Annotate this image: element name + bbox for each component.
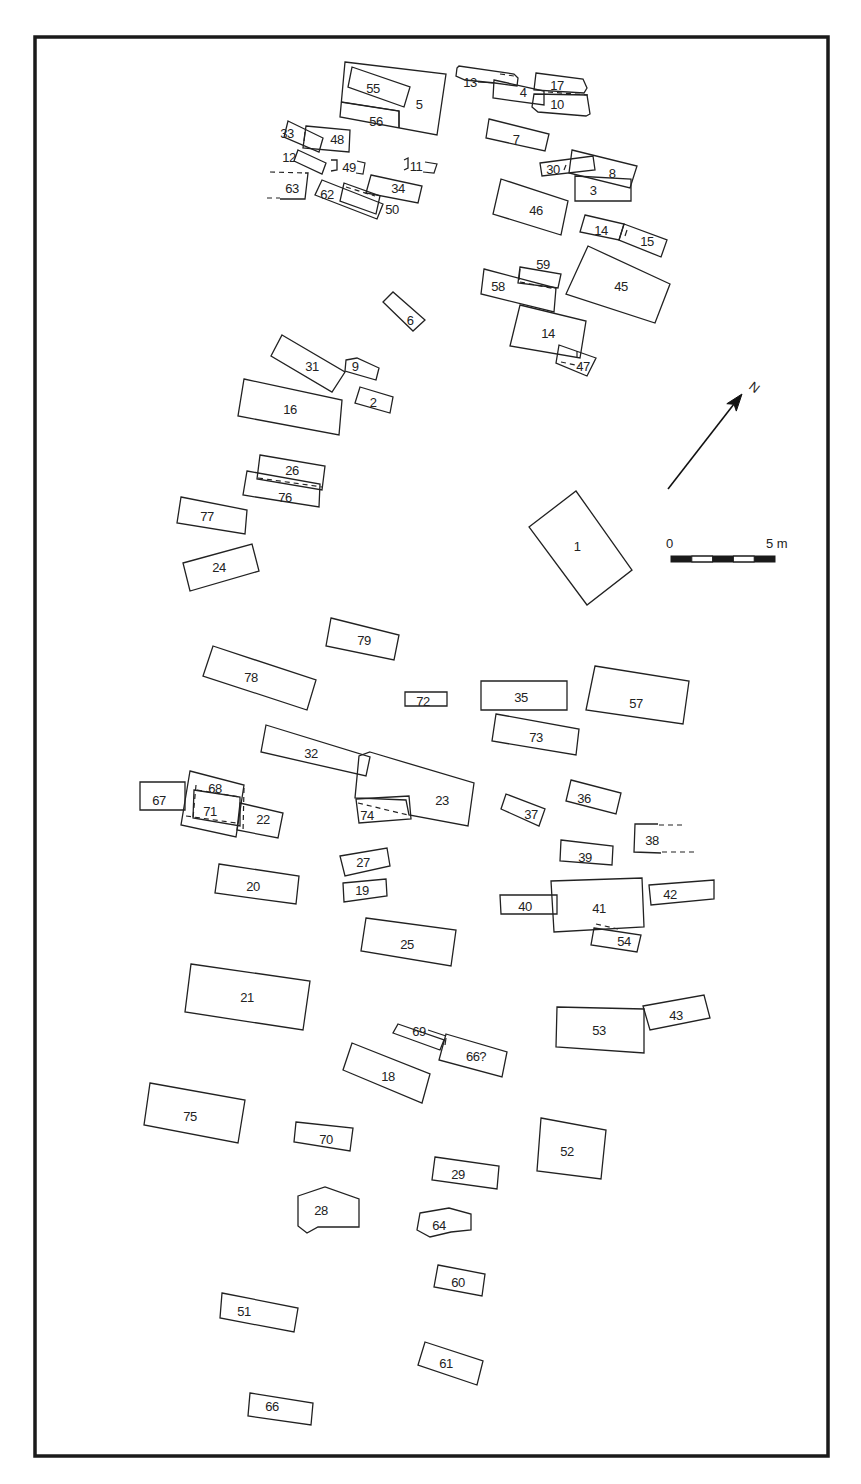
feature-outline (404, 158, 408, 170)
feature-76: 76 (243, 471, 320, 507)
north-arrow: N (668, 379, 763, 489)
feature-label: 20 (246, 879, 260, 894)
plan-frame (35, 37, 828, 1456)
feature-69: 69 (393, 1024, 444, 1051)
feature-39: 39 (560, 840, 613, 865)
feature-21: 21 (185, 964, 310, 1030)
feature-label: 30 (546, 162, 560, 177)
feature-14a: 14 (580, 215, 624, 240)
feature-8: 8 (569, 150, 637, 188)
feature-label: 14 (594, 223, 608, 238)
feature-label: 46 (529, 203, 543, 218)
feature-36: 36 (566, 780, 621, 814)
scale-end-label: 5 m (766, 536, 788, 551)
feature-label: 74 (360, 808, 374, 823)
feature-77: 77 (177, 497, 247, 534)
feature-label: 4 (520, 85, 527, 100)
feature-label: 66? (466, 1049, 486, 1064)
feature-7: 7 (486, 119, 549, 151)
feature-label: 2 (370, 395, 377, 410)
feature-40: 40 (500, 895, 557, 914)
feature-label: 25 (400, 937, 414, 952)
feature-label: 14 (541, 326, 555, 341)
feature-label: 38 (645, 833, 659, 848)
feature-label: 21 (240, 990, 254, 1005)
feature-70: 70 (294, 1122, 353, 1151)
feature-label: 58 (491, 279, 505, 294)
feature-9: 9 (345, 358, 379, 380)
feature-64: 64 (417, 1208, 471, 1237)
feature-51: 51 (220, 1293, 298, 1332)
feature-47: 47 (556, 345, 596, 376)
feature-label: 28 (314, 1203, 328, 1218)
feature-13: 13 (456, 66, 518, 90)
feature-label: 45 (614, 279, 628, 294)
feature-label: 67 (152, 793, 166, 808)
feature-outline (591, 928, 641, 952)
line-11-bracket-right (423, 162, 437, 173)
feature-label: 32 (304, 746, 318, 761)
feature-outline (575, 176, 631, 201)
feature-label: 59 (536, 257, 550, 272)
feature-label: 55 (366, 81, 380, 96)
feature-49: 49 (331, 160, 356, 175)
feature-label: 52 (560, 1144, 574, 1159)
feature-30: 30 (540, 156, 595, 177)
feature-16: 16 (238, 379, 342, 435)
feature-label: 33 (280, 126, 294, 141)
feature-label: 53 (592, 1023, 606, 1038)
feature-outline (432, 1157, 499, 1189)
feature-outline (298, 1187, 359, 1233)
scale-segment-dark (671, 556, 692, 562)
scale-bar: 0 5 m (666, 536, 788, 562)
feature-outline (566, 780, 621, 814)
feature-label: 17 (550, 78, 564, 93)
feature-label: 75 (183, 1109, 197, 1124)
feature-outline (383, 292, 425, 331)
feature-label: 9 (352, 359, 359, 374)
site-plan: 1234567891011121314151416171819202122232… (0, 0, 861, 1484)
feature-label: 40 (518, 899, 532, 914)
feature-outline (294, 150, 326, 174)
feature-78: 78 (203, 646, 316, 710)
feature-54: 54 (591, 928, 641, 952)
feature-label: 31 (305, 359, 319, 374)
feature-label: 49 (342, 160, 356, 175)
feature-31: 31 (271, 335, 345, 392)
feature-outline (248, 1393, 313, 1425)
north-arrow-icon (727, 394, 742, 411)
feature-label: 15 (640, 234, 654, 249)
feature-label: 50 (385, 202, 399, 217)
feature-label: 54 (617, 934, 631, 949)
feature-73: 73 (492, 714, 579, 755)
feature-3: 3 (575, 176, 631, 201)
feature-label: 18 (381, 1069, 395, 1084)
feature-label: 3 (590, 183, 597, 198)
scale-bar-segments (671, 556, 775, 562)
feature-38: 38 (634, 824, 661, 853)
feature-label: 22 (256, 812, 270, 827)
feature-33: 33 (280, 121, 323, 152)
feature-label: 16 (283, 402, 297, 417)
feature-label: 41 (592, 901, 606, 916)
feature-45: 45 (566, 246, 670, 323)
feature-label: 10 (550, 97, 564, 112)
feature-5: 5 (340, 62, 446, 135)
feature-26: 26 (257, 455, 325, 490)
feature-52: 52 (537, 1118, 606, 1179)
feature-label: 29 (451, 1167, 465, 1182)
feature-label: 35 (514, 690, 528, 705)
feature-label: 62 (320, 187, 334, 202)
feature-outline (529, 491, 632, 605)
feature-15: 15 (619, 224, 667, 257)
feature-label: 76 (278, 490, 292, 505)
feature-57: 57 (586, 666, 689, 724)
feature-18: 18 (343, 1043, 430, 1103)
feature-label: 6 (407, 313, 414, 328)
feature-label: 39 (578, 850, 592, 865)
scale-start-label: 0 (666, 536, 673, 551)
feature-label: 1 (574, 539, 581, 554)
feature-label: 42 (663, 887, 677, 902)
feature-outline (501, 794, 545, 826)
north-label: N (746, 379, 763, 397)
